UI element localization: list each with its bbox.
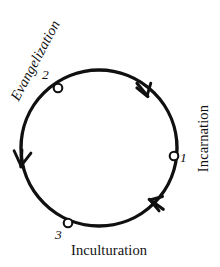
node-label-incarnation: Incarnation bbox=[196, 105, 211, 172]
arrow-evangelization-to-inculturation bbox=[12, 149, 31, 168]
arrow-inculturation-to-incarnation bbox=[148, 191, 169, 212]
node-marker-2[interactable] bbox=[54, 84, 63, 93]
cycle-diagram: 1 2 3 Incarnation Evangelization Incultu… bbox=[0, 0, 220, 267]
cycle-diagram-graphic bbox=[0, 0, 220, 267]
node-number-1: 1 bbox=[180, 151, 187, 165]
node-number-3: 3 bbox=[55, 228, 62, 242]
node-label-inculturation: Inculturation bbox=[71, 243, 147, 258]
node-number-2: 2 bbox=[42, 68, 49, 82]
node-marker-1[interactable] bbox=[170, 152, 179, 161]
node-marker-3[interactable] bbox=[64, 219, 73, 228]
